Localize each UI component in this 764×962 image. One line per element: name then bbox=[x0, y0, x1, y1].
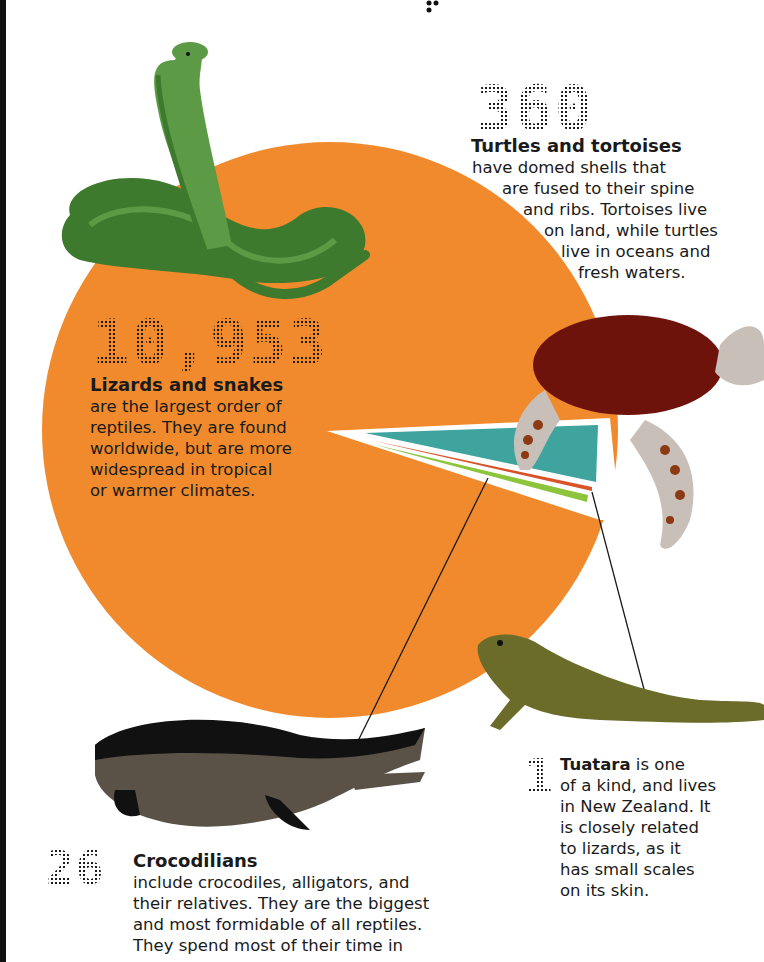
turtles-description: have domed shells that are fused to thei… bbox=[472, 157, 718, 283]
tuatara-line: of a kind, and lives bbox=[560, 775, 716, 796]
lizards-description: are the largest order of reptiles. They … bbox=[90, 396, 292, 501]
lizards-line: reptiles. They are found bbox=[90, 417, 292, 438]
crocodilians-line: include crocodiles, alligators, and bbox=[133, 872, 429, 893]
lizards-count: 10,953 bbox=[92, 312, 328, 374]
lizards-line: are the largest order of bbox=[90, 396, 292, 417]
crocodile-illustration bbox=[95, 720, 425, 830]
turtles-line: fresh waters. bbox=[578, 262, 718, 283]
tuatara-illustration bbox=[478, 634, 764, 730]
crocodilians-line: their relatives. They are the biggest bbox=[133, 893, 429, 914]
turtles-line: on land, while turtles bbox=[544, 220, 718, 241]
tuatara-first-line: Tuatara is one bbox=[560, 754, 716, 775]
tuatara-line: to lizards, as it bbox=[560, 838, 716, 859]
turtles-line: and ribs. Tortoises live bbox=[523, 199, 718, 220]
tuatara-title: Tuatara bbox=[560, 755, 631, 774]
tuatara-count: 1 bbox=[524, 752, 555, 800]
tuatara-line: in New Zealand. It bbox=[560, 796, 716, 817]
lizards-line: widespread in tropical bbox=[90, 459, 292, 480]
tuatara-description: Tuatara is one of a kind, and lives in N… bbox=[560, 754, 716, 901]
lizards-title: Lizards and snakes bbox=[90, 374, 283, 395]
turtles-line: live in oceans and bbox=[561, 241, 718, 262]
crocodilians-count: 26 bbox=[46, 845, 105, 891]
top-dots bbox=[427, 1, 439, 13]
crocodilians-title: Crocodilians bbox=[133, 850, 258, 871]
tuatara-first-line-rest: is one bbox=[631, 755, 685, 774]
turtles-line: are fused to their spine bbox=[502, 178, 718, 199]
tuatara-line: is closely related bbox=[560, 817, 716, 838]
lizards-line: or warmer climates. bbox=[90, 480, 292, 501]
turtles-line: have domed shells that bbox=[472, 157, 718, 178]
crocodilians-line: and most formidable of all reptiles. bbox=[133, 914, 429, 935]
turtles-count: 360 bbox=[476, 78, 594, 140]
crocodilians-line: They spend most of their time in bbox=[133, 935, 429, 956]
turtles-title: Turtles and tortoises bbox=[471, 135, 682, 156]
tuatara-line: on its skin. bbox=[560, 880, 716, 901]
lizards-line: worldwide, but are more bbox=[90, 438, 292, 459]
crocodilians-description: include crocodiles, alligators, and thei… bbox=[133, 872, 429, 956]
tuatara-line: has small scales bbox=[560, 859, 716, 880]
